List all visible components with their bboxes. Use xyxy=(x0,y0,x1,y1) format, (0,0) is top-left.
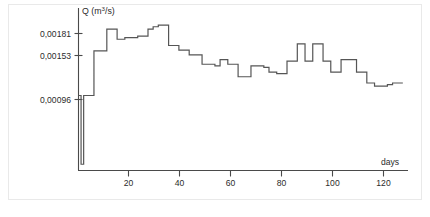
discharge-series-line xyxy=(79,25,403,164)
y-tick-label-2: 0,00153 xyxy=(40,51,71,61)
x-axis-group: 20 40 60 80 100 120 days xyxy=(78,157,408,188)
x-tick-label-40: 40 xyxy=(175,178,185,188)
hydrograph-chart: 0,00181 0,00153 0,00096 Q (m3/s) 20 40 6… xyxy=(0,0,430,217)
x-tick-label-20: 20 xyxy=(124,178,134,188)
y-axis-title-suffix: /s) xyxy=(105,6,115,16)
x-tick-label-60: 60 xyxy=(226,178,236,188)
x-tick-label-100: 100 xyxy=(325,178,340,188)
x-tick-label-120: 120 xyxy=(376,178,391,188)
y-axis-title-prefix: Q (m xyxy=(82,6,102,16)
x-tick-label-80: 80 xyxy=(277,178,287,188)
y-tick-label-1: 0,00096 xyxy=(40,95,71,105)
y-axis-group: 0,00181 0,00153 0,00096 xyxy=(40,8,83,171)
svg-text:Q (m3/s): Q (m3/s) xyxy=(82,5,115,16)
y-tick-label-3: 0,00181 xyxy=(40,29,71,39)
x-axis-title: days xyxy=(381,157,399,167)
y-axis-title: Q (m3/s) xyxy=(82,5,115,16)
chart-figure: 0,00181 0,00153 0,00096 Q (m3/s) 20 40 6… xyxy=(0,0,430,217)
